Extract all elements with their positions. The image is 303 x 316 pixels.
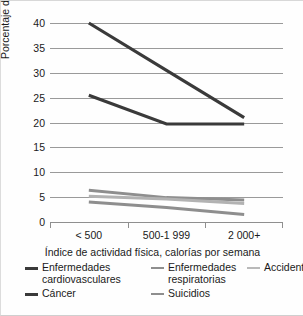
legend-swatch-suicidios <box>151 293 164 295</box>
y-tick-5: 5 <box>39 192 45 203</box>
series-line-4 <box>89 202 244 214</box>
chart-legend: Enfermedades cardiovasculares Enfermedad… <box>25 262 297 310</box>
x-axis-tick-labels: < 500 500-1 999 2 000+ <box>50 230 283 244</box>
legend-row-1: Enfermedades cardiovasculares Enfermedad… <box>25 262 297 284</box>
y-tick-30: 30 <box>33 68 45 79</box>
legend-label-cancer: Cáncer <box>42 288 76 300</box>
legend-item-enfermedades-respiratorias: Enfermedades respiratorias <box>151 262 236 285</box>
x-tick-mark-3 <box>282 222 283 228</box>
legend-item-accidentes: Accidentes <box>247 262 303 274</box>
x-tick-label-0: < 500 <box>76 230 103 241</box>
legend-swatch-cancer <box>25 293 38 296</box>
y-tick-35: 35 <box>33 43 45 54</box>
legend-item-enfermedades-cardiovasculares: Enfermedades cardiovasculares <box>25 262 121 285</box>
legend-item-suicidios: Suicidios <box>151 288 210 300</box>
legend-item-cancer: Cáncer <box>25 288 76 300</box>
series-lines <box>50 23 283 222</box>
y-tick-40: 40 <box>33 18 45 29</box>
x-axis-title: Índice de actividad física, calorías por… <box>1 246 303 258</box>
legend-row-2: Cáncer Suicidios <box>25 288 297 310</box>
legend-label-accidentes: Accidentes <box>264 262 303 274</box>
y-tick-10: 10 <box>33 167 45 178</box>
x-axis-ticks <box>50 222 283 228</box>
legend-swatch-accidentes <box>247 267 260 269</box>
chart-figure: Porcentaje de muertes 40 35 30 25 20 15 … <box>0 0 303 316</box>
x-tick-mark-2 <box>205 222 206 228</box>
series-line-1 <box>89 95 244 124</box>
y-tick-25: 25 <box>33 92 45 103</box>
plot-area <box>50 23 283 222</box>
y-tick-15: 15 <box>33 142 45 153</box>
legend-label-suicidios: Suicidios <box>168 288 210 300</box>
legend-swatch-respiratorias <box>151 267 164 269</box>
legend-label-cardiovasculares: Enfermedades cardiovasculares <box>42 262 121 285</box>
x-tick-mark-1 <box>128 222 129 228</box>
x-tick-label-2: 2 000+ <box>228 230 260 241</box>
y-tick-20: 20 <box>33 117 45 128</box>
y-tick-0: 0 <box>39 217 45 228</box>
y-axis-tick-labels: 40 35 30 25 20 15 10 5 0 <box>1 23 45 222</box>
x-tick-label-1: 500-1 999 <box>143 230 190 241</box>
legend-label-respiratorias: Enfermedades respiratorias <box>168 262 236 285</box>
x-tick-mark-0 <box>50 222 51 228</box>
legend-swatch-cardiovasculares <box>25 267 38 270</box>
